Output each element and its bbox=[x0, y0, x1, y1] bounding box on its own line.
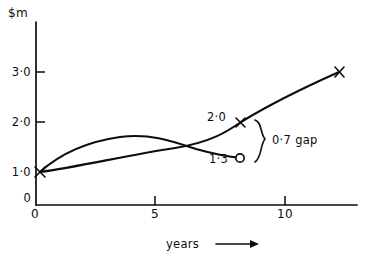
x-tick-label-0: 0 bbox=[31, 207, 39, 221]
y-tick-label-2: 2·0 bbox=[4, 115, 31, 129]
marker-circle-one-three bbox=[236, 154, 244, 162]
x-tick-label-5: 5 bbox=[151, 207, 159, 221]
x-axis-title: years bbox=[166, 237, 199, 251]
data-label-one-point-three: 1·3 bbox=[209, 152, 228, 166]
data-label-two-point-zero: 2·0 bbox=[207, 110, 226, 124]
chart-container: $m 3·0 2·0 1·0 0 0 5 10 2·0 1·3 0·7 gap … bbox=[0, 0, 379, 268]
marker-x-two bbox=[236, 118, 245, 127]
series-rising-curve bbox=[40, 72, 339, 172]
chart-plot-area bbox=[0, 0, 379, 268]
marker-x-end bbox=[335, 67, 344, 77]
y-tick-label-0: 0 bbox=[4, 191, 31, 205]
x-axis-arrow-icon bbox=[216, 240, 259, 248]
y-axis-unit-label: $m bbox=[8, 6, 28, 20]
y-tick-label-1: 1·0 bbox=[4, 165, 31, 179]
gap-annotation-label: 0·7 gap bbox=[272, 133, 318, 147]
gap-brace-icon bbox=[255, 120, 265, 162]
x-tick-label-10: 10 bbox=[277, 207, 293, 221]
y-tick-label-3: 3·0 bbox=[4, 65, 31, 79]
